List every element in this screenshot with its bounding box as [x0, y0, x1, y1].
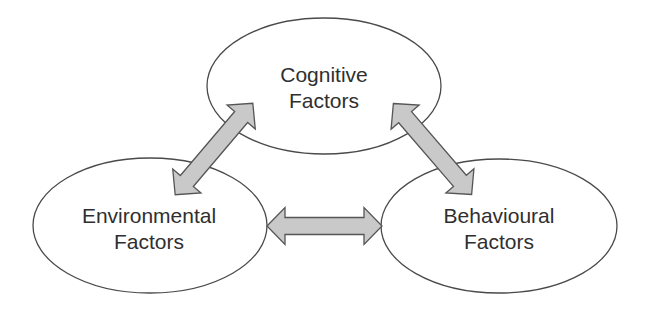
cognitive-label-line1: Cognitive: [280, 63, 368, 86]
double-arrow-icon-environmental-behavioural: [267, 208, 382, 245]
environmental-label-line2: Factors: [114, 230, 184, 253]
reciprocal-determinism-diagram: Cognitive Factors Environmental Factors …: [0, 0, 646, 309]
behavioural-label-line1: Behavioural: [444, 204, 555, 227]
environmental-label-line1: Environmental: [82, 204, 216, 227]
cognitive-label-line2: Factors: [289, 89, 359, 112]
cognitive-factors-node: [207, 18, 441, 154]
behavioural-label-line2: Factors: [464, 230, 534, 253]
